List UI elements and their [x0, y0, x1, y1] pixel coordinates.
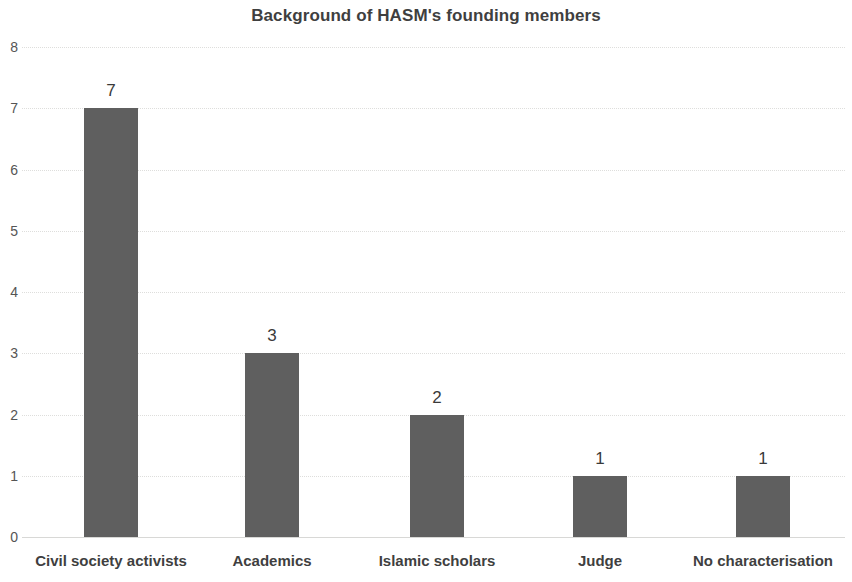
bar[interactable]	[573, 476, 627, 537]
y-axis-tick-2: 2	[0, 408, 18, 422]
x-axis-category-label: Judge	[578, 551, 622, 571]
bar[interactable]	[736, 476, 790, 537]
x-axis-category-label: Academics	[232, 551, 311, 571]
plot-area	[22, 47, 845, 537]
bar[interactable]	[245, 353, 299, 537]
y-axis-tick-6: 6	[0, 163, 18, 177]
gridline-6	[22, 170, 845, 171]
y-axis-tick-5: 5	[0, 224, 18, 238]
bar[interactable]	[410, 415, 464, 538]
x-axis-category-label: Civil society activists	[35, 551, 187, 571]
gridline-5	[22, 231, 845, 232]
x-axis-category-label: No characterisation	[693, 551, 833, 571]
gridline-8	[22, 47, 845, 48]
y-axis-tick-0: 0	[0, 530, 18, 544]
y-axis-tick-4: 4	[0, 285, 18, 299]
chart-title: Background of HASM's founding members	[0, 4, 852, 28]
gridline-0	[22, 537, 845, 538]
bar[interactable]	[84, 108, 138, 537]
bar-chart: Background of HASM's founding members 01…	[0, 0, 852, 582]
y-axis-tick-3: 3	[0, 346, 18, 360]
y-axis-tick-1: 1	[0, 469, 18, 483]
x-axis-category-label: Islamic scholars	[379, 551, 496, 571]
y-axis-tick-8: 8	[0, 40, 18, 54]
gridline-3	[22, 353, 845, 354]
gridline-7	[22, 108, 845, 109]
y-axis-tick-7: 7	[0, 101, 18, 115]
gridline-4	[22, 292, 845, 293]
